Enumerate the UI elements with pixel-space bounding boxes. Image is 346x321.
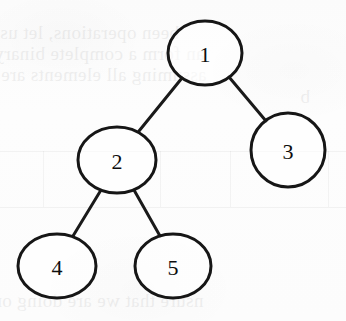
figure-canvas: been operations, let us aan form a compl… (0, 0, 346, 321)
tree-node-2: 2 (78, 127, 156, 193)
tree-node-label-1: 1 (200, 42, 211, 67)
tree-nodes: 12345 (18, 21, 325, 298)
tree-node-label-5: 5 (168, 255, 179, 280)
tree-edge-2-4 (73, 190, 101, 236)
tree-edge-2-5 (134, 190, 160, 236)
tree-node-3: 3 (251, 113, 325, 187)
tree-edge-1-2 (139, 78, 182, 131)
tree-node-label-4: 4 (52, 255, 63, 280)
binary-tree-diagram: 12345 (0, 0, 346, 321)
tree-node-1: 1 (168, 21, 242, 85)
tree-node-5: 5 (135, 234, 211, 298)
tree-edge-1-3 (229, 77, 266, 121)
tree-node-4: 4 (18, 234, 96, 298)
tree-node-label-2: 2 (112, 149, 123, 174)
tree-node-label-3: 3 (283, 139, 294, 164)
